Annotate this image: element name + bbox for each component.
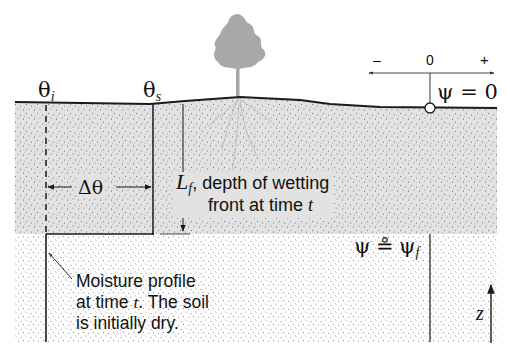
surface-pressure-point [425,103,435,113]
tree-icon [214,14,265,98]
minus-sign: – [373,52,381,68]
theta-s-subscript: s [156,89,161,104]
lf-label: Lf, depth of wetting front at time t [174,172,333,218]
moisture-line2-prefix: at time [76,292,133,312]
moisture-profile-callout: Moisture profile at time t. The soil is … [76,271,209,334]
lf-subscript: f [188,181,192,196]
theta-s-symbol: θ [143,78,156,102]
plus-sign: + [480,51,489,68]
lf-description-line2: front at time [208,195,308,215]
lf-label-line2: front at time t [176,195,329,216]
theta-i-symbol: θ [38,78,51,102]
moisture-callout-line2: at time t. The soil [76,292,209,313]
zero-label: 0 [426,52,434,68]
z-axis-label: z [476,302,484,325]
lf-label-line1: Lf, depth of wetting [176,172,329,195]
theta-i-subscript: i [51,89,55,104]
infiltration-diagram: θi θs Δθ Lf, depth of wetting front at t… [0,0,510,356]
psi-front-subscript: f [415,245,419,260]
psi-front-label: ψ ≗ ψf [354,234,419,259]
pressure-axis-minus: – [373,52,381,68]
lf-symbol: L [176,169,188,194]
lf-description-line1: , depth of wetting [192,173,329,193]
psi-surface-text: ψ = 0 [437,80,498,104]
pressure-axis-plus: + [480,51,489,68]
lf-time-variable: t [308,195,313,215]
psi-surface-label: ψ = 0 [437,80,498,105]
theta-i-label: θi [38,78,55,102]
delta-theta-text: Δθ [78,176,103,198]
moisture-callout-line3: is initially dry. [76,313,209,334]
psi-front-approx-equal: ≗ [376,234,394,258]
psi-front-rhs: ψ [399,234,415,258]
psi-front-lhs: ψ [354,234,370,258]
theta-s-label: θs [143,78,161,102]
moisture-callout-line1: Moisture profile [76,271,209,292]
z-axis-text: z [476,302,484,324]
moisture-line2-suffix: . The soil [138,292,209,312]
pressure-axis-zero: 0 [426,52,434,68]
delta-theta-label: Δθ [77,176,104,198]
